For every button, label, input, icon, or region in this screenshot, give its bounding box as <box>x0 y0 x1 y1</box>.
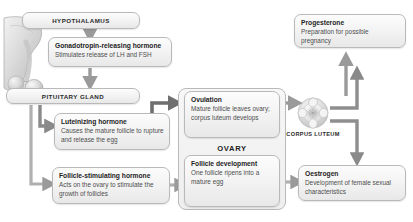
gnrh-title: Gonadotropin-releasing hormone <box>55 42 166 50</box>
node-ovulation[interactable]: Ovulation Mature follicle leaves ovary; … <box>184 91 280 138</box>
arrow-corpus-luteum-to-progesterone <box>330 72 357 108</box>
fsh-body: Acts on the ovary to stimulate the growt… <box>59 181 164 198</box>
node-oestrogen[interactable]: Oestrogen Development of female sexual c… <box>298 165 406 201</box>
node-luteinizing-hormone[interactable]: Luteinizing hormone Causes the mature fo… <box>54 113 170 150</box>
arrow-pituitary-to-lh <box>40 105 52 126</box>
gnrh-body: Stimulates release of LH and FSH <box>55 51 166 59</box>
hypothalamus-label: HYPOTHALAMUS <box>52 17 110 24</box>
follicle-development-title: Follicle development <box>191 160 274 168</box>
ovulation-title: Ovulation <box>191 96 274 104</box>
node-progesterone[interactable]: Progesterone Preparation for possible pr… <box>294 14 406 48</box>
oestrogen-title: Oestrogen <box>305 170 400 178</box>
arrow-corpus-luteum-to-oestrogen <box>330 121 357 160</box>
node-hypothalamus[interactable]: HYPOTHALAMUS <box>22 12 140 29</box>
luteinizing-hormone-body: Causes the mature follicle to rupture an… <box>61 127 164 144</box>
ovulation-body: Mature follicle leaves ovary; corpus lut… <box>191 105 274 122</box>
progesterone-body: Preparation for possible pregnancy <box>301 28 400 45</box>
diagram-canvas: HYPOTHALAMUS Gonadotropin-releasing horm… <box>0 0 413 222</box>
node-follicle-development[interactable]: Follicle development One follicle ripens… <box>184 155 280 207</box>
follicle-development-body: One follicle ripens into a mature egg <box>191 169 274 186</box>
oestrogen-body: Development of female sexual characteris… <box>305 179 400 196</box>
fsh-title: Follicle-stimulating hormone <box>59 172 164 180</box>
corpus-luteum-label: CORPUS LUTEUM <box>278 131 348 137</box>
node-follicle-stimulating-hormone[interactable]: Follicle-stimulating hormone Acts on the… <box>52 167 170 204</box>
pituitary-gland-label: PITUITARY GLAND <box>42 93 104 100</box>
node-gnrh[interactable]: Gonadotropin-releasing hormone Stimulate… <box>48 37 172 67</box>
progesterone-title: Progesterone <box>301 19 400 27</box>
node-pituitary-gland[interactable]: PITUITARY GLAND <box>6 88 140 104</box>
luteinizing-hormone-title: Luteinizing hormone <box>61 118 164 126</box>
ovary-label: OVARY <box>178 144 286 153</box>
